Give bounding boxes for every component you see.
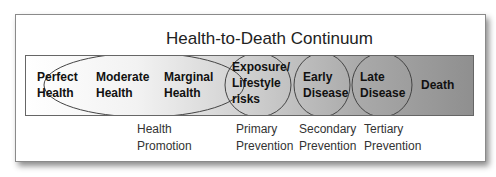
stage-label: Marginal (164, 69, 213, 85)
stage-label: Lifestyle (232, 75, 290, 91)
stage-label: Health (164, 85, 213, 101)
prevention-label: Primary (236, 121, 293, 138)
stage-exposure-lifestyle-risks: Exposure/ Lifestyle risks (232, 59, 290, 107)
stage-label: Disease (303, 85, 348, 101)
prevention-tertiary: Tertiary Prevention (364, 121, 421, 155)
prevention-secondary: Secondary Prevention (299, 121, 356, 155)
prevention-label: Prevention (236, 138, 293, 155)
stage-label: Moderate (96, 69, 149, 85)
diagram-title: Health-to-Death Continuum (16, 29, 485, 49)
stage-label: Health (96, 85, 149, 101)
stage-late-disease: Late Disease (360, 69, 405, 101)
stage-label: Health (37, 85, 78, 101)
prevention-label: Tertiary (364, 121, 421, 138)
stage-death: Death (421, 77, 454, 93)
stage-marginal-health: Marginal Health (164, 69, 213, 101)
stage-moderate-health: Moderate Health (96, 69, 149, 101)
continuum-band: Perfect Health Moderate Health Marginal … (25, 55, 474, 116)
prevention-label: Prevention (364, 138, 421, 155)
stage-label: Perfect (37, 69, 78, 85)
continuum-card: Health-to-Death Continuum Perfect Health… (15, 14, 486, 162)
prevention-label: Promotion (137, 138, 192, 155)
stage-label: Disease (360, 85, 405, 101)
stage-label: risks (232, 91, 290, 107)
stage-label: Death (421, 77, 454, 93)
stage-perfect-health: Perfect Health (37, 69, 78, 101)
prevention-primary: Primary Prevention (236, 121, 293, 155)
stage-label: Late (360, 69, 405, 85)
prevention-label: Secondary (299, 121, 356, 138)
prevention-label: Prevention (299, 138, 356, 155)
prevention-label: Health (137, 121, 192, 138)
prevention-health-promotion: Health Promotion (137, 121, 192, 155)
stage-label: Exposure/ (232, 59, 290, 75)
stage-early-disease: Early Disease (303, 69, 348, 101)
stage-label: Early (303, 69, 348, 85)
